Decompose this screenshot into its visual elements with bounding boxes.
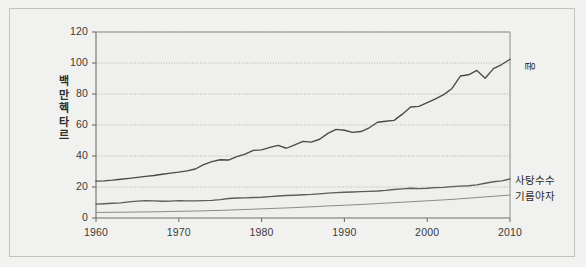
- y-tick-label: 40: [60, 149, 88, 161]
- y-tick-label: 80: [60, 87, 88, 99]
- x-tick-label: 1990: [324, 226, 364, 238]
- y-tick-label: 20: [60, 180, 88, 192]
- x-tick-label: 1980: [242, 226, 282, 238]
- x-tick-label: 2000: [407, 226, 447, 238]
- y-tick-label: 60: [60, 118, 88, 130]
- series-label-soybean: 콩: [522, 61, 537, 71]
- x-tick-label: 1970: [159, 226, 199, 238]
- series-label-sugarcane: 사탕수수: [515, 172, 555, 187]
- chart-figure: 백만 헥타르 020406080100120196019701980199020…: [0, 0, 586, 267]
- x-tick-label: 1960: [76, 226, 116, 238]
- x-tick-label: 2010: [490, 226, 530, 238]
- y-tick-label: 0: [60, 211, 88, 223]
- y-tick-label: 100: [60, 56, 88, 68]
- y-tick-label: 120: [60, 25, 88, 37]
- series-label-oilpalm: 기름야자: [515, 188, 555, 203]
